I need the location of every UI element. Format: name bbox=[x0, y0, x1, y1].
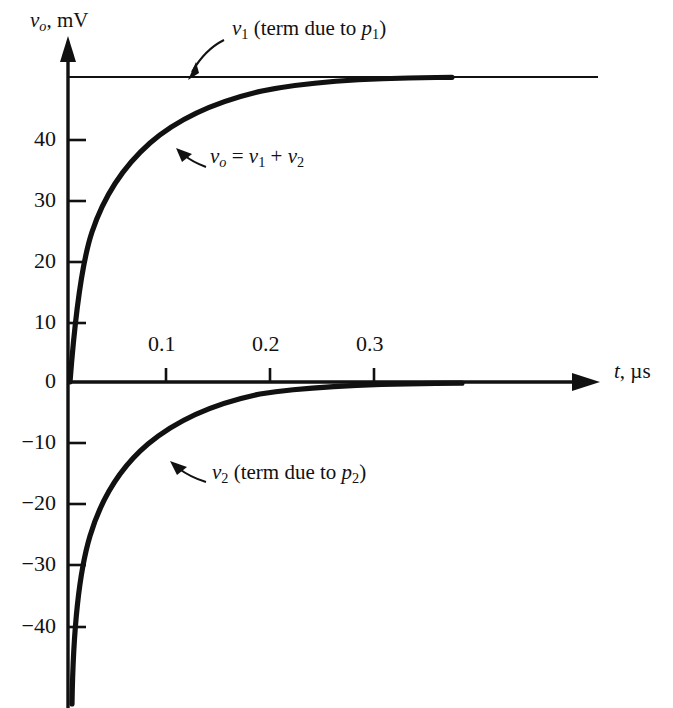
y-tick-label-minus-10: −10 bbox=[0, 431, 56, 453]
x-tick-label-0-3: 0.3 bbox=[356, 333, 384, 355]
y-tick-label-minus-40: −40 bbox=[0, 615, 56, 637]
x-tick-label-0-1: 0.1 bbox=[148, 333, 176, 355]
y-tick-label-0: 0 bbox=[10, 370, 56, 392]
x-axis-arrowhead bbox=[572, 373, 600, 391]
chart-canvas bbox=[0, 0, 673, 708]
y-axis-arrowhead bbox=[60, 36, 76, 62]
y-tick-label-10: 10 bbox=[10, 311, 56, 333]
y-tick-label-30: 30 bbox=[10, 189, 56, 211]
series-v2-curve bbox=[72, 383, 462, 704]
y-axis-label: vo, mV bbox=[30, 10, 88, 33]
y-tick-label-20: 20 bbox=[10, 250, 56, 272]
y-tick-label-minus-20: −20 bbox=[0, 492, 56, 514]
y-tick-label-40: 40 bbox=[10, 128, 56, 150]
vo-annotation-label: vo = v1 + v2 bbox=[210, 146, 304, 169]
v2-annotation-label: v2 (term due to p2) bbox=[212, 462, 366, 485]
x-axis-label: t, µs bbox=[614, 361, 651, 382]
v1-annotation-label: v1 (term due to p1) bbox=[232, 18, 386, 41]
figure-two-pole-step-response: vo, mV t, µs 40 30 20 10 0 −10 −20 −30 −… bbox=[0, 0, 673, 708]
x-tick-label-0-2: 0.2 bbox=[252, 333, 280, 355]
y-tick-label-minus-30: −30 bbox=[0, 553, 56, 575]
